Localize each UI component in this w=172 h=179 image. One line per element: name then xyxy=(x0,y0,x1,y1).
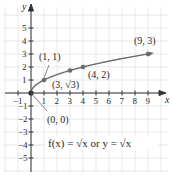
y-tick-label: 3 xyxy=(22,49,27,59)
data-point xyxy=(81,65,86,70)
label-point-3-root3: (3, √3) xyxy=(52,79,79,91)
y-tick-label: 1 xyxy=(22,75,27,85)
y-tick-label: −2 xyxy=(18,114,28,124)
y-tick-label: 5 xyxy=(22,23,27,33)
label-point-0-0: (0, 0) xyxy=(47,114,69,126)
sqrt-function-graph: −1123456789−5−4−3−2−112345 x y (1, 1) (3… xyxy=(0,0,172,179)
y-tick-label: −5 xyxy=(18,153,28,163)
x-tick-label: 2 xyxy=(55,96,60,106)
x-tick-label: 8 xyxy=(133,96,138,106)
x-tick-label: 5 xyxy=(94,96,99,106)
y-axis-label: y xyxy=(21,1,27,12)
label-point-1-1: (1, 1) xyxy=(39,51,61,63)
x-tick-label: 1 xyxy=(42,96,47,106)
y-tick-label: −4 xyxy=(18,140,28,150)
y-tick-label: 4 xyxy=(22,36,27,46)
x-tick-label: 6 xyxy=(107,96,112,106)
data-point xyxy=(146,52,151,57)
y-tick-label: −3 xyxy=(18,127,28,137)
x-axis-label: x xyxy=(164,94,170,105)
x-tick-label: 9 xyxy=(146,96,151,106)
y-tick-label: 2 xyxy=(22,62,27,72)
x-tick-label: 7 xyxy=(120,96,125,106)
y-axis-arrow-icon xyxy=(29,4,34,11)
label-point-4-2: (4, 2) xyxy=(88,69,110,81)
y-tick-label: −1 xyxy=(18,101,28,111)
x-tick-label: 4 xyxy=(81,96,86,106)
data-point xyxy=(68,68,73,73)
data-point xyxy=(42,78,47,83)
x-tick-label: 3 xyxy=(68,96,73,106)
equation-label: f(x) = √x or y = √x xyxy=(48,137,132,150)
label-point-9-3: (9, 3) xyxy=(134,35,156,47)
